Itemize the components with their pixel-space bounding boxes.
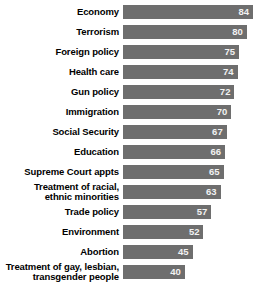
chart-row: Treatment of gay, lesbian, transgender p… <box>0 265 257 279</box>
bar-value-label: 80 <box>123 25 247 39</box>
bar-value-label: 65 <box>123 165 224 179</box>
bar-track: 74 <box>123 65 257 79</box>
bar-track: 52 <box>123 225 257 239</box>
chart-row: Environment52 <box>0 225 257 239</box>
category-label: Economy <box>0 7 123 18</box>
bar-track: 57 <box>123 205 257 219</box>
bar-track: 75 <box>123 45 257 59</box>
bar-value-label: 67 <box>123 125 227 139</box>
bar-value-label: 74 <box>123 65 238 79</box>
bar-value-label: 40 <box>123 265 185 279</box>
chart-row: Terrorism80 <box>0 25 257 39</box>
bar-track: 80 <box>123 25 257 39</box>
bar-track: 45 <box>123 245 257 259</box>
chart-row: Health care74 <box>0 65 257 79</box>
bar-value-label: 66 <box>123 145 225 159</box>
category-label: Gun policy <box>0 87 123 98</box>
bar-value-label: 45 <box>123 245 193 259</box>
bar-value-label: 63 <box>123 185 221 199</box>
bar-track: 70 <box>123 105 257 119</box>
category-label: Environment <box>0 227 123 238</box>
category-label: Education <box>0 147 123 158</box>
chart-row: Education66 <box>0 145 257 159</box>
chart-row: Trade policy57 <box>0 205 257 219</box>
bar-value-label: 72 <box>123 85 234 99</box>
chart-row: Foreign policy75 <box>0 45 257 59</box>
category-label: Supreme Court appts <box>0 167 123 178</box>
chart-row: Social Security67 <box>0 125 257 139</box>
category-label: Treatment of gay, lesbian, transgender p… <box>0 262 123 283</box>
bar-track: 84 <box>123 5 257 19</box>
bar-value-label: 57 <box>123 205 211 219</box>
bar-track: 66 <box>123 145 257 159</box>
bar-track: 40 <box>123 265 257 279</box>
bar-value-label: 52 <box>123 225 203 239</box>
chart-row: Economy84 <box>0 5 257 19</box>
category-label: Health care <box>0 67 123 78</box>
category-label: Immigration <box>0 107 123 118</box>
chart-row: Gun policy72 <box>0 85 257 99</box>
bar-track: 65 <box>123 165 257 179</box>
horizontal-bar-chart: Economy84Terrorism80Foreign policy75Heal… <box>0 0 257 303</box>
category-label: Trade policy <box>0 207 123 218</box>
category-label: Abortion <box>0 247 123 258</box>
chart-row: Abortion45 <box>0 245 257 259</box>
category-label: Treatment of racial, ethnic minorities <box>0 182 123 203</box>
category-label: Foreign policy <box>0 47 123 58</box>
bar-track: 63 <box>123 185 257 199</box>
bar-value-label: 70 <box>123 105 231 119</box>
bar-track: 72 <box>123 85 257 99</box>
chart-row: Immigration70 <box>0 105 257 119</box>
bar-track: 67 <box>123 125 257 139</box>
bar-value-label: 75 <box>123 45 239 59</box>
bar-value-label: 84 <box>123 5 253 19</box>
category-label: Social Security <box>0 127 123 138</box>
chart-row: Supreme Court appts65 <box>0 165 257 179</box>
chart-row: Treatment of racial, ethnic minorities63 <box>0 185 257 199</box>
category-label: Terrorism <box>0 27 123 38</box>
